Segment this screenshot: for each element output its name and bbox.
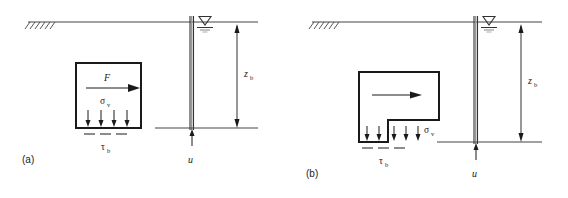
depth-symbol: z (527, 75, 532, 86)
depth-label: z b (243, 68, 253, 81)
panel-a: F σ v τ b u (22, 16, 258, 165)
depth-dimension-arrow-icon (235, 24, 240, 128)
base-shear-symbol: τ (379, 156, 383, 166)
force-arrow-icon (372, 92, 422, 99)
base-shear-label: τ b (101, 142, 110, 154)
depth-subscript: b (250, 74, 253, 81)
pore-pressure-arrow-icon (474, 143, 479, 160)
base-shear-subscript: b (107, 147, 110, 154)
vertical-stress-subscript: v (431, 130, 435, 137)
vertical-stress-symbol: σ (100, 96, 105, 106)
vertical-stress-label: σ v (424, 125, 435, 137)
depth-subscript: b (534, 81, 537, 88)
depth-label: z b (527, 75, 537, 88)
vertical-stress-label: σ v (100, 96, 111, 108)
ground-hatch-icon (309, 22, 339, 29)
panel-caption-a: (a) (22, 154, 34, 165)
base-stress-arrows-left-icon (365, 126, 382, 141)
force-label: F (103, 72, 111, 83)
figure-canvas: F σ v τ b u (0, 0, 568, 198)
pile-vertical-double-line (190, 16, 194, 130)
ground-hatch-icon (25, 22, 55, 29)
base-stress-arrows-icon (86, 110, 130, 127)
force-arrow-icon (86, 84, 140, 92)
depth-symbol: z (243, 68, 248, 79)
vertical-stress-symbol: σ (424, 125, 429, 135)
water-table-icon (481, 17, 497, 33)
vertical-stress-subscript: v (107, 101, 111, 108)
pile-vertical-double-line (474, 16, 478, 144)
water-table-icon (197, 17, 213, 33)
base-shear-symbol: τ (101, 142, 105, 152)
geotechnical-figure: F σ v τ b u (0, 0, 568, 198)
depth-dimension-arrow-icon (519, 24, 524, 142)
panel-caption-b: (b) (306, 168, 318, 179)
pore-pressure-label: u (472, 168, 477, 179)
base-shear-label: τ b (379, 156, 388, 168)
panel-b: σ v τ b u z b (306, 16, 542, 179)
pore-pressure-arrow-icon (190, 129, 195, 146)
pore-pressure-label: u (188, 154, 193, 165)
base-shear-subscript: b (385, 161, 388, 168)
base-stress-arrows-right-icon (392, 126, 421, 141)
